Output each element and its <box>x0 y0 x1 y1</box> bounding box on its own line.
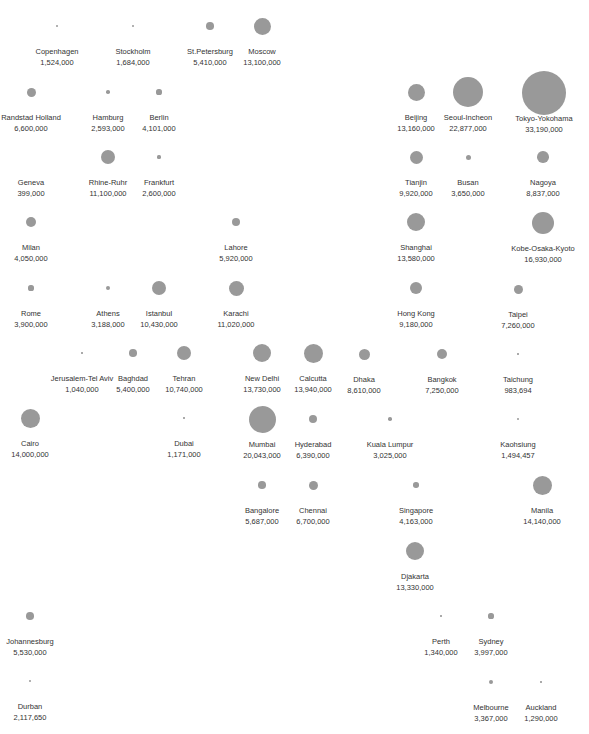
population-bubble <box>410 151 423 164</box>
city-name: Frankfurt <box>104 178 214 188</box>
population-bubble <box>232 218 240 226</box>
population-bubble <box>101 150 115 164</box>
population-bubble <box>410 282 422 294</box>
population-bubble <box>56 25 58 27</box>
population-bubble <box>157 155 160 158</box>
population-bubble <box>309 415 317 423</box>
city-name: Taichung <box>463 375 573 385</box>
population-bubble <box>183 417 185 419</box>
city-population: 4,163,000 <box>361 517 471 527</box>
city-population: 7,260,000 <box>463 321 573 331</box>
population-bubble <box>517 353 519 355</box>
population-bubble <box>206 22 214 30</box>
city-population: 3,997,000 <box>436 648 546 658</box>
city-population: 16,930,000 <box>488 255 589 265</box>
population-bubble <box>304 344 323 363</box>
population-bubble <box>514 285 523 294</box>
population-bubble <box>229 281 244 296</box>
city-name: Moscow <box>207 47 317 57</box>
city-name: Singapore <box>361 506 471 516</box>
city-name: Manila <box>487 506 589 516</box>
city-population: 2,600,000 <box>104 189 214 199</box>
population-bubble <box>106 90 110 94</box>
population-bubble <box>253 344 271 362</box>
city-name: Johannesburg <box>0 637 85 647</box>
population-bubble <box>522 71 566 115</box>
population-bubble <box>517 418 519 420</box>
population-bubble <box>489 680 494 685</box>
city-population-bubble-chart: Copenhagen 1,524,000 Stockholm 1,684,000… <box>0 0 589 734</box>
population-bubble <box>532 212 554 234</box>
city-population: 33,190,000 <box>489 125 589 135</box>
city-name: Sydney <box>436 637 546 647</box>
population-bubble <box>27 88 36 97</box>
population-bubble <box>156 89 161 94</box>
population-bubble <box>540 681 542 683</box>
population-bubble <box>453 77 483 107</box>
population-bubble <box>129 349 137 357</box>
city-name: Djakarta <box>360 572 470 582</box>
population-bubble <box>258 481 266 489</box>
city-name: Cairo <box>0 439 85 449</box>
population-bubble <box>407 213 425 231</box>
city-name: Kaohsiung <box>463 440 573 450</box>
population-bubble <box>28 285 33 290</box>
city-name: Nagoya <box>488 178 589 188</box>
city-population: 4,101,000 <box>104 124 214 134</box>
population-bubble <box>254 18 271 35</box>
population-bubble <box>309 481 318 490</box>
city-name: Hong Kong <box>361 309 471 319</box>
city-name: Lahore <box>181 243 291 253</box>
city-population: 2,117,650 <box>0 713 85 723</box>
city-population: 6,700,000 <box>258 517 368 527</box>
city-name: Kobe-Osaka-Kyoto <box>488 244 589 254</box>
city-population: 4,050,000 <box>0 254 86 264</box>
population-bubble <box>440 615 442 617</box>
city-name: Berlin <box>104 113 214 123</box>
population-bubble <box>26 217 36 227</box>
city-population: 14,000,000 <box>0 450 85 460</box>
city-population: 1,494,457 <box>463 451 573 461</box>
population-bubble <box>26 612 34 620</box>
city-population: 14,140,000 <box>487 517 589 527</box>
population-bubble <box>413 482 419 488</box>
city-population: 8,837,000 <box>488 189 589 199</box>
population-bubble <box>406 542 424 560</box>
city-name: Tokyo-Yokohama <box>489 114 589 124</box>
city-name: Karachi <box>181 309 291 319</box>
city-population: 13,580,000 <box>361 254 471 264</box>
city-name: Chennai <box>258 506 368 516</box>
city-name: Taipei <box>463 310 573 320</box>
city-population: 5,920,000 <box>181 254 291 264</box>
city-population: 9,180,000 <box>361 320 471 330</box>
population-bubble <box>152 281 166 295</box>
city-name: Auckland <box>486 703 589 713</box>
population-bubble <box>106 286 110 290</box>
city-population: 13,100,000 <box>207 58 317 68</box>
population-bubble <box>132 25 134 27</box>
population-bubble <box>533 476 552 495</box>
population-bubble <box>437 349 447 359</box>
population-bubble <box>488 613 493 618</box>
city-population: 1,290,000 <box>486 714 589 724</box>
population-bubble <box>408 84 425 101</box>
city-population: 983,694 <box>463 386 573 396</box>
population-bubble <box>537 151 549 163</box>
city-name: Durban <box>0 702 85 712</box>
population-bubble <box>81 352 83 354</box>
city-name: Shanghai <box>361 243 471 253</box>
city-population: 11,020,000 <box>181 320 291 330</box>
population-bubble <box>359 349 370 360</box>
population-bubble <box>177 346 191 360</box>
population-bubble <box>21 409 40 428</box>
population-bubble <box>466 155 471 160</box>
population-bubble <box>249 406 276 433</box>
city-population: 5,530,000 <box>0 648 85 658</box>
population-bubble <box>29 680 31 682</box>
population-bubble <box>388 417 392 421</box>
city-population: 3,025,000 <box>335 451 445 461</box>
city-population: 13,330,000 <box>360 583 470 593</box>
city-name: Kuala Lumpur <box>335 440 445 450</box>
city-name: Milan <box>0 243 86 253</box>
